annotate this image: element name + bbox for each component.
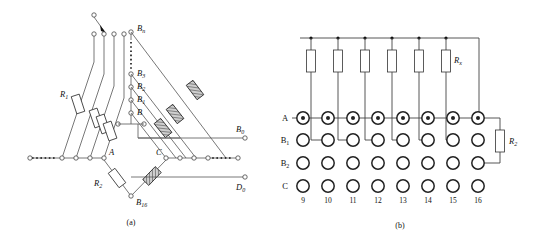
bottom-bus-left xyxy=(28,156,106,160)
column-number: 13 xyxy=(399,196,407,205)
column-number: 15 xyxy=(449,196,457,205)
row-label-b2: B2 xyxy=(281,158,290,169)
bus-terminal[interactable] xyxy=(178,156,182,160)
top-terminal[interactable] xyxy=(102,32,106,36)
jack-b2[interactable] xyxy=(372,157,384,169)
label-b3: B3 xyxy=(137,68,145,79)
terminal-b0[interactable] xyxy=(243,136,247,140)
jack-grid xyxy=(297,112,484,192)
jack-c[interactable] xyxy=(447,180,459,192)
jack-b1[interactable] xyxy=(472,134,484,146)
row-label-a: A xyxy=(282,113,289,123)
jack-c[interactable] xyxy=(297,180,309,192)
jack-a[interactable] xyxy=(297,112,309,124)
bus-terminal[interactable] xyxy=(60,156,64,160)
jack-b1[interactable] xyxy=(397,134,409,146)
top-terminal[interactable] xyxy=(112,32,116,36)
bus-terminal[interactable] xyxy=(28,156,32,160)
resistor-vertical xyxy=(361,50,370,72)
jack-b1[interactable] xyxy=(422,134,434,146)
node-b16[interactable] xyxy=(129,194,133,198)
node-c[interactable] xyxy=(164,156,168,160)
bus-terminal[interactable] xyxy=(88,156,92,160)
top-terminal[interactable] xyxy=(92,32,96,36)
jack-b2[interactable] xyxy=(347,157,359,169)
jack-a[interactable] xyxy=(347,112,359,124)
resistor-vertical xyxy=(388,50,397,72)
column-number: 9 xyxy=(301,196,305,205)
switch-pivot-terminal[interactable] xyxy=(92,13,96,17)
jack-b2[interactable] xyxy=(297,157,309,169)
label-c-node: C xyxy=(156,147,162,157)
jack-b1[interactable] xyxy=(372,134,384,146)
caption-b: (b) xyxy=(395,221,405,230)
jack-b2[interactable] xyxy=(322,157,334,169)
column-number: 12 xyxy=(374,196,382,205)
jack-b2[interactable] xyxy=(472,157,484,169)
bus-terminal[interactable] xyxy=(206,156,210,160)
resistor-vertical xyxy=(307,50,316,72)
label-r1: R1 xyxy=(59,89,68,100)
b0-output xyxy=(138,136,247,140)
jack-b1[interactable] xyxy=(347,134,359,146)
selector-switch[interactable] xyxy=(92,13,106,33)
jack-a[interactable] xyxy=(397,112,409,124)
jack-b2[interactable] xyxy=(447,157,459,169)
label-rx: Rx xyxy=(453,55,462,66)
jack-b2[interactable] xyxy=(422,157,434,169)
jack-b1[interactable] xyxy=(447,134,459,146)
jack-c[interactable] xyxy=(472,180,484,192)
figure-container: Bn B3 B2 B1 B R1 A C R2 B16 B0 D0 (a) xyxy=(0,0,554,244)
panel-a: Bn B3 B2 B1 B R1 A C R2 B16 B0 D0 (a) xyxy=(28,13,247,227)
hatched-resistors-right xyxy=(154,80,204,137)
label-b1: B1 xyxy=(137,94,145,105)
jack-b2[interactable] xyxy=(397,157,409,169)
bus-terminal[interactable] xyxy=(74,156,78,160)
jack-row-b2 xyxy=(297,157,484,169)
resistor-hatched xyxy=(143,167,162,186)
panel-b: A B1 B2 C 9 10 11 12 13 14 15 16 Rx R2 (… xyxy=(281,36,518,230)
jack-c[interactable] xyxy=(322,180,334,192)
bus-terminal[interactable] xyxy=(236,156,240,160)
label-b16: B16 xyxy=(136,197,147,208)
node-a[interactable] xyxy=(102,156,106,160)
lower-vee xyxy=(104,160,166,198)
jack-a[interactable] xyxy=(322,112,334,124)
row-label-b1: B1 xyxy=(281,135,290,146)
jack-a[interactable] xyxy=(422,112,434,124)
terminal-d0[interactable] xyxy=(243,175,247,179)
jack-a[interactable] xyxy=(472,112,484,124)
resistor-hatched xyxy=(166,104,184,123)
plain-resistors-left xyxy=(71,94,117,141)
label-a-node: A xyxy=(108,147,115,157)
resistor-vertical xyxy=(334,50,343,72)
r2-branch xyxy=(484,130,505,163)
label-r2: R2 xyxy=(93,178,102,189)
top-terminal-strip xyxy=(92,32,126,36)
label-b2: B2 xyxy=(137,81,145,92)
column-number: 16 xyxy=(474,196,482,205)
jack-c[interactable] xyxy=(372,180,384,192)
resistor-vertical xyxy=(415,50,424,72)
caption-a: (a) xyxy=(127,218,136,227)
label-bn: Bn xyxy=(137,23,145,34)
top-terminal[interactable] xyxy=(122,32,126,36)
jack-c[interactable] xyxy=(397,180,409,192)
row-label-c: C xyxy=(282,181,288,191)
jack-row-c xyxy=(297,180,484,192)
jack-c[interactable] xyxy=(347,180,359,192)
resistor-rx xyxy=(442,50,451,72)
label-r2-b: R2 xyxy=(508,136,517,147)
jack-row-b1 xyxy=(297,134,484,146)
jack-c[interactable] xyxy=(422,180,434,192)
resistor-hatched xyxy=(154,118,172,137)
column-number: 14 xyxy=(424,196,432,205)
jack-a[interactable] xyxy=(372,112,384,124)
jack-b1[interactable] xyxy=(322,134,334,146)
jack-a[interactable] xyxy=(447,112,459,124)
jack-b1[interactable] xyxy=(297,134,309,146)
label-b0: B0 xyxy=(236,124,244,135)
resistor-r2 xyxy=(108,168,126,187)
resistor-r2-b xyxy=(496,130,505,152)
bus-terminal[interactable] xyxy=(192,156,196,160)
